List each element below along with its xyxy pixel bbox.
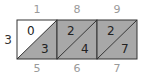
cell-ones-digit: 4 (81, 42, 89, 56)
cell-tens-digit: 2 (107, 24, 115, 38)
cell-ones-digit: 3 (41, 42, 49, 56)
cell-tens-digit: 2 (67, 24, 75, 38)
result-digit-3: 7 (97, 63, 137, 75)
cell-ones-digit: 7 (121, 42, 129, 56)
result-digit-1: 5 (17, 63, 57, 75)
result-digit-2: 6 (57, 63, 97, 75)
cell-tens-digit: 0 (27, 24, 35, 38)
